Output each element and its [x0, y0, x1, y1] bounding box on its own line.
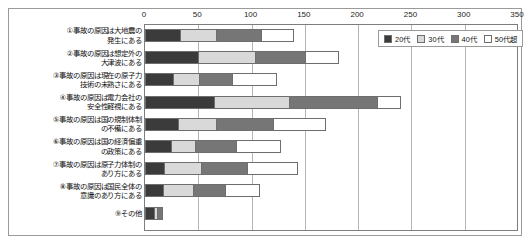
- category-label: ③事故の原因は現在の原子力 技術の未熟さにある: [9, 71, 142, 89]
- legend-item[interactable]: 20代: [384, 33, 410, 44]
- category-label: ①事故の原因は大地震の 発生にある: [9, 26, 142, 44]
- category-label: ⑨その他: [9, 209, 142, 218]
- bar-segment: [247, 162, 298, 175]
- bar-segment: [145, 118, 178, 131]
- legend-label: 40代: [462, 33, 477, 44]
- bar-segment: [145, 207, 154, 220]
- bar-segment: [201, 162, 247, 175]
- legend-swatch-icon: [451, 35, 459, 43]
- legend-label: 30代: [428, 33, 443, 44]
- legend-item[interactable]: 40代: [451, 33, 477, 44]
- bar-segment: [145, 96, 214, 109]
- legend-label: 20代: [395, 33, 410, 44]
- bar-segment: [255, 51, 305, 64]
- legend-item[interactable]: 30代: [417, 33, 443, 44]
- bar-segment: [236, 140, 282, 153]
- category-label: ⑦事故の原因は原子力体制の あり方にある: [9, 160, 142, 178]
- category-label: ⑤事故の原因は国の規制体制 の不備にある: [9, 115, 142, 133]
- bar-segment: [199, 73, 232, 86]
- bar-segment: [163, 184, 193, 197]
- bar-segment: [173, 73, 200, 86]
- bar-segment: [273, 118, 326, 131]
- bar-segment: [145, 29, 180, 42]
- bar-row: [145, 96, 401, 109]
- bar-segment: [195, 140, 235, 153]
- category-label: ④事故の原因は電力会社の 安全性軽視にある: [9, 93, 142, 111]
- x-tick-label: 300: [457, 10, 470, 19]
- bar-segment: [145, 51, 198, 64]
- bar-row: [145, 73, 277, 86]
- category-labels: ①事故の原因は大地震の 発生にある②事故の原因は想定外の 大津波にある③事故の原…: [9, 26, 144, 234]
- bar-row: [145, 140, 281, 153]
- bar-row: [145, 207, 163, 220]
- bar-row: [145, 51, 339, 64]
- x-tick-label: 100: [244, 10, 257, 19]
- bars-layer: [145, 25, 518, 230]
- legend-swatch-icon: [384, 35, 392, 43]
- category-label: ②事故の原因は想定外の 大津波にある: [9, 49, 142, 67]
- bar-segment: [216, 118, 272, 131]
- x-tick-label: 350: [510, 10, 523, 19]
- category-label: ⑥事故の原因は国の経済偏重 の政策にある: [9, 137, 142, 155]
- bar-segment: [145, 73, 173, 86]
- legend-swatch-icon: [484, 35, 492, 43]
- x-axis-ticks: 050100150200250300350: [144, 10, 518, 24]
- bar-segment: [216, 29, 261, 42]
- bar-segment: [145, 184, 163, 197]
- bar-row: [145, 29, 294, 42]
- bar-segment: [180, 29, 216, 42]
- x-tick-label: 0: [142, 10, 146, 19]
- x-tick-label: 200: [350, 10, 363, 19]
- bar-segment: [193, 184, 225, 197]
- bar-segment: [171, 140, 196, 153]
- bar-segment: [214, 96, 289, 109]
- bar-row: [145, 184, 260, 197]
- legend-item[interactable]: 50代超: [484, 33, 517, 44]
- bar-segment: [225, 184, 260, 197]
- bar-row: [145, 118, 326, 131]
- stacked-bar-chart: 050100150200250300350 ①事故の原因は大地震の 発生にある②…: [0, 0, 531, 245]
- x-tick-label: 150: [297, 10, 310, 19]
- bar-segment: [145, 140, 171, 153]
- x-tick-label: 50: [193, 10, 202, 19]
- bar-segment: [261, 29, 294, 42]
- legend-label: 50代超: [495, 33, 517, 44]
- bar-segment: [377, 96, 400, 109]
- x-tick-label: 250: [404, 10, 417, 19]
- category-label: ⑧事故の原因は国民全体の 意識のあり方にある: [9, 182, 142, 200]
- bar-row: [145, 162, 298, 175]
- bar-segment: [164, 162, 201, 175]
- bar-segment: [305, 51, 339, 64]
- bar-segment: [178, 118, 216, 131]
- chart-legend: 20代30代40代50代超: [378, 30, 523, 47]
- bar-segment: [289, 96, 377, 109]
- bar-segment: [157, 207, 163, 220]
- bar-segment: [145, 162, 164, 175]
- bar-segment: [232, 73, 277, 86]
- bar-segment: [198, 51, 254, 64]
- legend-swatch-icon: [417, 35, 425, 43]
